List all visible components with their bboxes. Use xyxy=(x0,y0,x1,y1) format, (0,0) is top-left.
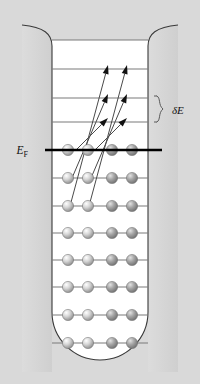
well-wall-right xyxy=(148,25,178,372)
electron-sphere xyxy=(62,254,73,265)
electron-sphere xyxy=(126,172,137,183)
electron-sphere xyxy=(106,309,117,320)
electron-sphere xyxy=(82,254,93,265)
electron-sphere xyxy=(82,309,93,320)
diagram-svg: EFδE xyxy=(0,0,200,384)
delta-e-label: δE xyxy=(172,104,184,116)
electron-sphere xyxy=(82,337,93,348)
electron-sphere xyxy=(62,337,73,348)
electron-sphere xyxy=(82,172,93,183)
fermi-label-e: E xyxy=(16,144,24,156)
electron-sphere xyxy=(126,337,137,348)
electron-sphere xyxy=(106,254,117,265)
electron-sphere xyxy=(106,172,117,183)
electron-sphere xyxy=(62,227,73,238)
electron-sphere xyxy=(62,200,73,211)
figure-canvas: EFδE xyxy=(0,0,200,384)
electron-sphere xyxy=(106,227,117,238)
electron-sphere xyxy=(126,309,137,320)
electron-sphere xyxy=(126,227,137,238)
electron-sphere xyxy=(62,281,73,292)
electron-sphere xyxy=(62,309,73,320)
electron-sphere xyxy=(106,200,117,211)
electron-sphere xyxy=(62,172,73,183)
electron-sphere xyxy=(126,200,137,211)
electron-sphere xyxy=(82,227,93,238)
electron-sphere xyxy=(106,337,117,348)
electron-sphere xyxy=(106,281,117,292)
well-wall-left xyxy=(22,25,52,372)
fermi-label-sub: F xyxy=(24,150,29,159)
electron-sphere xyxy=(126,254,137,265)
electron-sphere xyxy=(126,281,137,292)
electron-sphere xyxy=(82,281,93,292)
electron-sphere xyxy=(82,200,93,211)
